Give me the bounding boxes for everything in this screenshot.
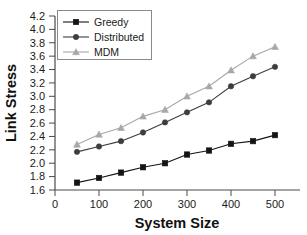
data-point xyxy=(74,180,79,185)
data-point xyxy=(74,149,79,154)
data-point xyxy=(140,130,145,135)
x-tick-label: 200 xyxy=(134,198,152,210)
y-tick-label: 3.2 xyxy=(30,77,45,89)
y-tick-label: 3.4 xyxy=(30,63,45,75)
line-chart: 1.61.82.02.22.42.62.83.03.23.43.63.84.04… xyxy=(0,0,307,235)
legend-marker-circle-icon xyxy=(73,34,78,39)
legend-label: MDM xyxy=(94,46,119,58)
data-point xyxy=(96,175,101,180)
data-point xyxy=(250,74,255,79)
y-tick-label: 3.8 xyxy=(30,37,45,49)
data-point xyxy=(184,152,189,157)
y-tick-label: 2.4 xyxy=(30,130,45,142)
data-point xyxy=(140,165,145,170)
y-tick-label: 4.2 xyxy=(30,10,45,22)
data-point xyxy=(272,64,277,69)
legend-marker-square-icon xyxy=(73,19,78,24)
data-point xyxy=(162,106,169,112)
data-point xyxy=(272,43,279,49)
data-point xyxy=(118,170,123,175)
data-point xyxy=(118,124,125,130)
y-tick-label: 1.6 xyxy=(30,184,45,196)
data-point xyxy=(250,138,255,143)
data-point xyxy=(272,132,277,137)
y-tick-label: 3.6 xyxy=(30,50,45,62)
data-point xyxy=(96,144,101,149)
y-axis-ticks: 1.61.82.02.22.42.62.83.03.23.43.63.84.04… xyxy=(30,10,55,196)
legend-label: Greedy xyxy=(94,16,129,28)
data-point xyxy=(228,84,233,89)
y-tick-label: 2.2 xyxy=(30,144,45,156)
y-axis-title: Link Stress xyxy=(3,64,19,142)
data-point xyxy=(250,53,257,59)
legend-label: Distributed xyxy=(94,31,144,43)
data-point xyxy=(228,67,235,73)
data-point xyxy=(162,161,167,166)
y-tick-label: 3.0 xyxy=(30,90,45,102)
data-point xyxy=(206,148,211,153)
x-tick-label: 0 xyxy=(52,198,58,210)
data-point xyxy=(184,110,189,115)
series-line xyxy=(77,135,275,183)
series-greedy xyxy=(74,132,277,185)
data-point xyxy=(206,100,211,105)
data-point xyxy=(228,141,233,146)
data-point xyxy=(74,141,81,147)
chart-figure: 1.61.82.02.22.42.62.83.03.23.43.63.84.04… xyxy=(0,0,307,235)
data-point xyxy=(118,138,123,143)
data-point xyxy=(162,120,167,125)
x-tick-label: 300 xyxy=(178,198,196,210)
y-tick-label: 2.0 xyxy=(30,157,45,169)
x-axis-ticks: 0100200300400500 xyxy=(52,190,284,210)
y-tick-label: 2.8 xyxy=(30,103,45,115)
data-series-group xyxy=(74,43,279,185)
legend: GreedyDistributedMDM xyxy=(58,11,152,60)
series-distributed xyxy=(74,64,277,154)
y-tick-label: 4.0 xyxy=(30,23,45,35)
x-tick-label: 400 xyxy=(222,198,240,210)
x-axis-title: System Size xyxy=(135,215,220,231)
y-tick-label: 2.6 xyxy=(30,117,45,129)
x-tick-label: 500 xyxy=(266,198,284,210)
y-tick-label: 1.8 xyxy=(30,170,45,182)
data-point xyxy=(184,93,191,99)
data-point xyxy=(206,83,213,89)
series-line xyxy=(77,67,275,152)
series-line xyxy=(77,47,275,145)
x-tick-label: 100 xyxy=(90,198,108,210)
